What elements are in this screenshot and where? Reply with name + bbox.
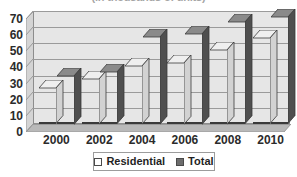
bar-residential-2002 xyxy=(82,79,99,124)
bar-front-face xyxy=(82,122,99,124)
bar-front-face xyxy=(39,122,56,124)
x-axis-labels: 200020022004200620082010 xyxy=(26,133,294,149)
plot-area xyxy=(26,11,294,131)
bar-side-face xyxy=(160,29,168,125)
bar-front-face xyxy=(185,122,202,124)
bar-total-2008 xyxy=(228,22,245,124)
bar-total-2006 xyxy=(185,34,202,124)
bar-front-face xyxy=(57,122,74,124)
bar-total-2010 xyxy=(271,17,288,124)
x-axis-tick-label: 2006 xyxy=(165,134,205,146)
y-axis-tick-label: 70 xyxy=(0,13,23,25)
gridline-depth-edge xyxy=(26,27,34,36)
bar-front-face xyxy=(167,122,184,124)
legend-label: Total xyxy=(188,156,213,167)
chart-legend: ResidentialTotal xyxy=(93,152,215,171)
x-axis-tick-label: 2010 xyxy=(251,134,291,146)
bar-total-2004 xyxy=(143,37,160,124)
plot-floor xyxy=(26,124,291,132)
bar-front-face xyxy=(143,122,160,124)
legend-swatch-icon xyxy=(94,158,102,166)
y-axis-tick-label: 50 xyxy=(0,45,23,57)
gridline-depth-edge xyxy=(26,76,34,85)
legend-swatch-icon xyxy=(176,158,184,166)
bar-front-face xyxy=(210,122,227,124)
bar-side-face xyxy=(74,68,82,125)
bar-front-face xyxy=(100,122,117,124)
x-axis-tick-label: 2008 xyxy=(208,134,248,146)
bar-front-face xyxy=(228,122,245,124)
y-axis-tick-label: 30 xyxy=(0,78,23,90)
gridline xyxy=(33,11,290,12)
y-axis-tick-label: 20 xyxy=(0,94,23,106)
y-axis-tick-label: 0 xyxy=(0,126,23,138)
bar-front-face xyxy=(125,122,142,124)
bar-front-face xyxy=(271,122,288,124)
x-axis-tick-label: 2002 xyxy=(79,134,119,146)
gridline-depth-edge xyxy=(26,108,34,117)
bar-residential-2004 xyxy=(125,66,142,124)
bar-residential-2006 xyxy=(167,63,184,124)
chart-title: (in thousands of units) xyxy=(0,0,297,3)
bar-residential-2000 xyxy=(39,88,56,124)
bar-residential-2010 xyxy=(253,38,270,124)
bar-side-face xyxy=(245,14,253,125)
bar-residential-2008 xyxy=(210,50,227,124)
bar-side-face xyxy=(202,26,210,125)
gridline-depth-edge xyxy=(26,59,34,68)
bar-total-2002 xyxy=(100,72,117,124)
bar-total-2000 xyxy=(57,76,74,124)
gridline-depth-edge xyxy=(26,92,34,101)
y-axis-labels: 010203040506070 xyxy=(0,11,23,132)
bar-front-face xyxy=(253,122,270,124)
gridline-depth-edge xyxy=(26,124,34,133)
y-axis-tick-label: 10 xyxy=(0,110,23,122)
bar-side-face xyxy=(288,9,296,125)
gridline-depth-edge xyxy=(26,43,34,52)
bar-side-face xyxy=(117,64,125,125)
y-axis-tick-label: 60 xyxy=(0,29,23,41)
bar-chart: (in thousands of units) 010203040506070 … xyxy=(0,0,297,177)
legend-label: Residential xyxy=(106,156,165,167)
x-axis-tick-label: 2004 xyxy=(122,134,162,146)
y-axis-tick-label: 40 xyxy=(0,61,23,73)
gridline-depth-edge xyxy=(26,11,34,20)
legend-item-total: Total xyxy=(176,156,213,167)
x-axis-tick-label: 2000 xyxy=(36,134,76,146)
legend-item-residential: Residential xyxy=(94,156,165,167)
